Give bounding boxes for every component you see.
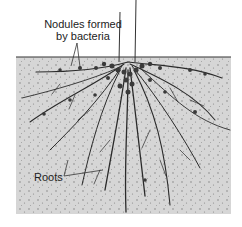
- nodules-label: Nodules formed by bacteria: [38, 18, 128, 42]
- root-nodule-diagram: Nodules formed by bacteria Roots: [0, 0, 242, 227]
- nodules-label-line2: by bacteria: [38, 30, 128, 42]
- nodules-label-line1: Nodules formed: [38, 18, 128, 30]
- roots-label: Roots: [34, 171, 63, 183]
